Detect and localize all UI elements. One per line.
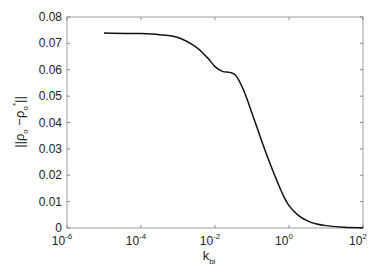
plot-area: [67, 17, 363, 228]
y-axis-label: ||ρo −ρo*||: [11, 96, 30, 148]
x-axis-label: kbi: [203, 248, 216, 266]
y-tick-label: 0.08: [39, 10, 63, 24]
x-tick-label: 10-2: [200, 232, 221, 248]
y-tick-label: 0.02: [39, 168, 63, 182]
y-tick-label: 0: [55, 221, 62, 235]
y-tick-label: 0.01: [39, 195, 63, 209]
svg-text:||ρo −ρo*||: ||ρo −ρo*||: [11, 96, 30, 148]
line-chart: 00.010.020.030.040.050.060.070.08 10-610…: [0, 0, 386, 280]
y-tick-label: 0.06: [39, 63, 63, 77]
x-tick-label: 10-4: [126, 232, 147, 248]
y-tick-label: 0.04: [39, 116, 63, 130]
y-tick-label: 0.05: [39, 89, 63, 103]
y-tick-label: 0.07: [39, 36, 63, 50]
x-tick-label: 102: [349, 232, 367, 248]
y-tick-label: 0.03: [39, 142, 63, 156]
x-tick-label: 100: [275, 232, 293, 248]
x-tick-label: 10-6: [52, 232, 73, 248]
